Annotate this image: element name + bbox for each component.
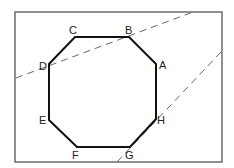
vertex-label-g: G (125, 149, 134, 161)
frame-border (15, 12, 222, 162)
vertex-label-b: B (125, 24, 132, 36)
vertex-label-c: C (69, 24, 77, 36)
vertex-label-d: D (39, 60, 47, 72)
octagon (49, 37, 156, 147)
vertex-label-a: A (159, 59, 167, 71)
diagram-canvas: ABCDEFGH (0, 0, 234, 168)
vertex-label-f: F (72, 149, 79, 161)
vertex-label-e: E (39, 114, 46, 126)
vertex-label-h: H (157, 114, 165, 126)
